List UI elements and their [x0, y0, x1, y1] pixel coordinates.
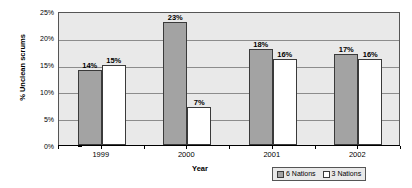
bar	[163, 22, 187, 145]
plot-area: 14%15%23%7%18%16%17%16%	[58, 12, 400, 146]
bar	[249, 49, 273, 145]
bar-value-label: 15%	[94, 57, 134, 65]
x-axis-boundary-tick	[58, 146, 59, 149]
legend-swatch-icon-3-nations	[323, 171, 330, 178]
x-axis-boundary-tick	[229, 146, 230, 149]
bar	[334, 54, 358, 145]
bar-value-label: 7%	[179, 99, 219, 107]
legend-entry-6-nations: 6 Nations	[277, 170, 316, 178]
x-axis-tick-label: 1999	[71, 150, 131, 159]
x-axis-tick-label: 2001	[242, 150, 302, 159]
bar	[273, 59, 297, 145]
x-axis-tick-label: 2002	[327, 150, 387, 159]
legend-entry-3-nations: 3 Nations	[323, 170, 362, 178]
bar-value-label: 16%	[350, 51, 390, 59]
y-axis-tick-label: 0%	[24, 143, 54, 150]
bar-value-label: 23%	[155, 14, 195, 22]
y-axis-tick-label: 5%	[24, 116, 54, 123]
y-axis-tick-label: 15%	[24, 62, 54, 69]
y-axis-tick-mark	[78, 146, 82, 147]
bar-value-label: 18%	[241, 41, 281, 49]
y-axis-tick-label: 10%	[24, 89, 54, 96]
x-axis-tick-label: 2000	[156, 150, 216, 159]
legend-label-6-nations: 6 Nations	[286, 170, 316, 178]
x-axis-tick-mark	[272, 146, 273, 149]
legend-label-3-nations: 3 Nations	[332, 170, 362, 178]
x-axis-boundary-tick	[315, 146, 316, 149]
y-axis-tick-labels: 0%5%10%15%20%25%	[24, 12, 54, 146]
bar	[358, 59, 382, 145]
y-axis-tick-label: 20%	[24, 35, 54, 42]
y-axis-tick-label: 25%	[24, 9, 54, 16]
bars-layer: 14%15%23%7%18%16%17%16%	[59, 13, 399, 145]
bar	[187, 107, 211, 145]
legend-swatch-icon-6-nations	[277, 171, 284, 178]
x-axis-tick-mark	[186, 146, 187, 149]
bar-value-label: 16%	[265, 51, 305, 59]
chart-legend: 6 Nations 3 Nations	[272, 167, 366, 181]
x-axis-tick-mark	[357, 146, 358, 149]
x-axis-boundary-tick	[400, 146, 401, 149]
bar	[102, 65, 126, 145]
x-axis-tick-mark	[101, 146, 102, 149]
x-axis-boundary-tick	[144, 146, 145, 149]
bar-chart: % Unclean scrums 0%5%10%15%20%25% 14%15%…	[0, 0, 412, 188]
x-axis-title: Year	[150, 164, 250, 173]
bar	[78, 70, 102, 145]
